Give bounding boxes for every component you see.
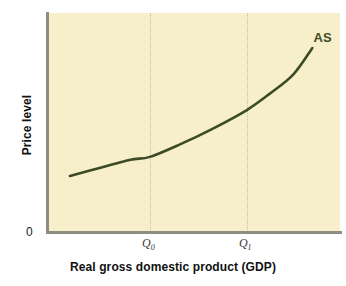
y-axis-title: Price level [20,80,34,170]
x-tick-q0-base: Q [142,236,151,250]
gridline-q1 [247,13,249,232]
gridline-q0 [150,13,152,232]
y-axis-line [46,12,49,234]
origin-label: 0 [26,225,33,239]
as-curve-label: AS [313,30,331,45]
plot-area [49,13,340,232]
x-tick-label-q0: Q0 [142,236,155,252]
x-tick-label-q1: Q1 [239,236,252,252]
x-axis-title: Real gross domestic product (GDP) [0,260,346,274]
x-tick-q1-subscript: 1 [248,243,252,252]
x-axis-line [46,231,342,234]
x-tick-q0-subscript: 0 [151,243,155,252]
as-curve-figure: 0 Price level Real gross domestic produc… [0,0,346,286]
x-tick-q1-base: Q [239,236,248,250]
